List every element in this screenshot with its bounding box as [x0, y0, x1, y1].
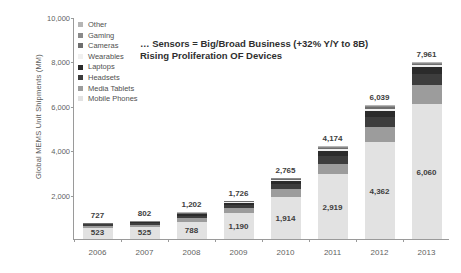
legend-item-gaming[interactable]: Gaming: [78, 31, 138, 41]
bar-segment-headsets: [412, 74, 442, 84]
x-tick-mark: [74, 239, 75, 242]
y-tick-label: 10,000: [47, 14, 70, 23]
bar-total-label: 802: [138, 209, 151, 218]
bar-2009[interactable]: [224, 201, 254, 239]
y-tick-mark: [71, 196, 74, 197]
bar-total-label: 1,726: [228, 189, 248, 198]
x-tick-label: 2012: [371, 248, 389, 257]
legend-label: Mobile Phones: [88, 95, 138, 103]
bar-total-label: 4,174: [322, 134, 342, 143]
legend-item-mobile-phones[interactable]: Mobile Phones: [78, 94, 138, 104]
legend-swatch: [78, 86, 83, 91]
bar-segment-media-tablets: [365, 127, 395, 143]
x-tick-mark: [121, 239, 122, 242]
y-tick-label: 8,000: [51, 58, 70, 67]
bar-2012[interactable]: [365, 105, 395, 239]
y-tick-mark: [71, 107, 74, 108]
bar-segment-media-tablets: [271, 189, 301, 196]
y-tick-mark: [71, 62, 74, 63]
bar-segment-media-tablets: [412, 85, 442, 105]
x-tick-mark: [309, 239, 310, 242]
bar-base-label: 788: [185, 226, 198, 235]
legend-label: Wearables: [88, 53, 124, 61]
y-axis-title: Global MEMS Unit Shipments (MM): [34, 17, 43, 217]
y-tick-label: 4,000: [51, 147, 70, 156]
headline-line-1: … Sensors = Big/Broad Business (+32% Y/Y…: [140, 38, 440, 50]
legend-swatch: [78, 75, 83, 80]
bar-base-label: 525: [138, 228, 151, 237]
x-tick-label: 2007: [136, 248, 154, 257]
legend-swatch: [78, 96, 83, 101]
bar-segment-headsets: [365, 117, 395, 127]
bar-total-label: 1,202: [181, 200, 201, 209]
bar-total-label: 727: [91, 211, 104, 220]
bar-2010[interactable]: [271, 178, 301, 239]
legend-item-media-tablets[interactable]: Media Tablets: [78, 84, 138, 94]
y-tick-label: 6,000: [51, 102, 70, 111]
bar-base-label: 6,060: [416, 168, 436, 177]
bar-base-label: 523: [91, 228, 104, 237]
legend-label: Other: [88, 21, 107, 29]
bar-total-label: 2,765: [275, 166, 295, 175]
chart-legend: OtherGamingCamerasWearablesLaptopsHeadse…: [78, 20, 138, 105]
legend-swatch: [78, 33, 83, 38]
y-tick-label: 2,000: [51, 191, 70, 200]
x-tick-label: 2008: [183, 248, 201, 257]
legend-item-cameras[interactable]: Cameras: [78, 41, 138, 51]
x-tick-mark: [262, 239, 263, 242]
bar-base-label: 1,914: [275, 214, 295, 223]
legend-label: Laptops: [88, 63, 115, 71]
legend-swatch: [78, 54, 83, 59]
legend-swatch: [78, 65, 83, 70]
bar-2011[interactable]: [318, 146, 348, 239]
bar-total-label: 6,039: [369, 93, 389, 102]
mems-shipments-chart: Global MEMS Unit Shipments (MM) 2,0004,0…: [0, 0, 461, 273]
legend-label: Headsets: [88, 74, 120, 82]
legend-item-headsets[interactable]: Headsets: [78, 73, 138, 83]
x-tick-mark: [403, 239, 404, 242]
legend-label: Cameras: [88, 42, 118, 50]
bar-base-label: 1,190: [228, 222, 248, 231]
x-tick-label: 2009: [230, 248, 248, 257]
x-tick-label: 2006: [89, 248, 107, 257]
y-tick-mark: [71, 18, 74, 19]
legend-item-laptops[interactable]: Laptops: [78, 62, 138, 72]
x-tick-label: 2013: [418, 248, 436, 257]
legend-swatch: [78, 22, 83, 27]
x-tick-mark: [215, 239, 216, 242]
bar-segment-laptops: [412, 67, 442, 74]
legend-label: Media Tablets: [88, 85, 134, 93]
bar-segment-headsets: [318, 156, 348, 164]
bar-base-label: 2,919: [322, 203, 342, 212]
headline-line-2: Rising Proliferation OF Devices: [140, 50, 440, 62]
bar-2013[interactable]: [412, 62, 442, 239]
legend-item-other[interactable]: Other: [78, 20, 138, 30]
x-tick-mark: [168, 239, 169, 242]
bar-base-label: 4,362: [369, 187, 389, 196]
legend-label: Gaming: [88, 32, 114, 40]
legend-swatch: [78, 43, 83, 48]
legend-item-wearables[interactable]: Wearables: [78, 52, 138, 62]
x-tick-mark: [356, 239, 357, 242]
x-tick-label: 2010: [277, 248, 295, 257]
y-tick-mark: [71, 151, 74, 152]
x-tick-label: 2011: [324, 248, 341, 257]
headline-block: … Sensors = Big/Broad Business (+32% Y/Y…: [140, 38, 440, 62]
bar-segment-media-tablets: [318, 164, 348, 174]
